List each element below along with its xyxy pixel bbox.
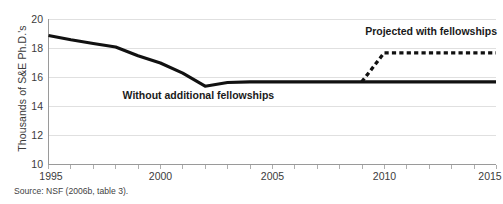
x-tick-label: 2000 — [149, 170, 173, 182]
x-tick-label: 2005 — [261, 170, 285, 182]
x-tick-label: 1995 — [39, 170, 63, 182]
y-tick-label: 14 — [31, 100, 43, 112]
annotation-without-fellowships: Without additional fellowships — [123, 89, 275, 101]
y-tick-label: 20 — [31, 13, 43, 25]
series-line-without-fellowships — [49, 35, 497, 86]
x-axis-minor-ticks — [49, 165, 497, 170]
x-tick-label: 2015 — [478, 170, 502, 182]
x-tick-label: 2010 — [373, 170, 397, 182]
figure-container: Thousands of S&E Ph.D.'s — [0, 0, 503, 204]
source-note: Source: NSF (2006b, table 3). — [14, 186, 128, 196]
y-tick-label: 12 — [31, 129, 43, 141]
y-axis-tick-labels: 20 18 16 14 12 10 — [31, 13, 43, 170]
y-tick-label: 18 — [31, 42, 43, 54]
y-tick-label: 10 — [31, 158, 43, 170]
annotation-projected-with-fellowships: Projected with fellowships — [365, 25, 497, 37]
y-tick-label: 16 — [31, 71, 43, 83]
grid-lines — [48, 20, 496, 136]
x-axis-tick-labels: 1995 2000 2005 2010 2015 — [39, 170, 502, 182]
line-chart-plot: 20 18 16 14 12 10 1995 2000 2005 2010 20… — [0, 0, 503, 204]
